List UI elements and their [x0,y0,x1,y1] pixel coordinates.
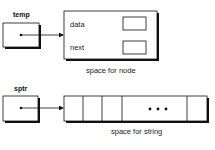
string-caption: space for string [111,127,162,136]
sptr-pointer-box [3,96,40,123]
temp-label: temp [13,11,30,19]
sptr-label: sptr [14,85,28,93]
field-data-label: data [70,20,85,29]
pointer-diagram: temp data next space for node sptr space… [0,0,215,150]
temp-pointer-box [3,23,41,49]
next-field-box [123,41,146,54]
data-field-box [123,17,146,30]
ellipsis-dot [149,108,152,111]
string-box [64,96,209,123]
node-caption: space for node [86,66,136,75]
field-next-label: next [70,43,85,52]
ellipsis-dot [157,108,160,111]
ellipsis-dot [165,108,168,111]
